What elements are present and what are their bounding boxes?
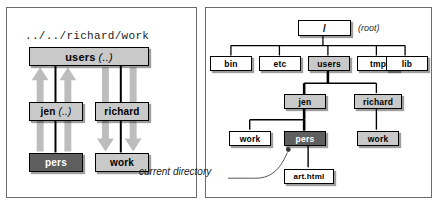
right-node-tmp-label: tmp bbox=[370, 59, 386, 69]
right-node-etc-label: etc bbox=[274, 59, 287, 69]
root-caption: (root) bbox=[358, 23, 380, 33]
figure-root: ../../richard/work bbox=[0, 0, 438, 205]
right-node-lib[interactable]: lib bbox=[386, 56, 428, 71]
right-node-work-jen-label: work bbox=[240, 134, 261, 144]
right-node-root-label: / bbox=[323, 23, 326, 34]
right-node-work-jen[interactable]: work bbox=[229, 131, 271, 146]
left-node-pers[interactable]: pers bbox=[29, 153, 83, 172]
right-node-jen[interactable]: jen bbox=[284, 94, 326, 109]
right-node-bin-label: bin bbox=[224, 59, 237, 69]
right-node-richard-label: richard bbox=[363, 97, 393, 107]
right-node-users[interactable]: users bbox=[308, 56, 350, 71]
right-node-etc[interactable]: etc bbox=[259, 56, 301, 71]
right-node-users-label: users bbox=[317, 59, 341, 69]
left-node-richard[interactable]: richard bbox=[95, 102, 149, 121]
left-node-users-annotation: (..) bbox=[99, 51, 113, 63]
left-node-pers-label: pers bbox=[45, 157, 67, 168]
left-node-jen[interactable]: jen(..) bbox=[29, 102, 83, 121]
current-directory-label: current directory bbox=[139, 166, 211, 177]
right-node-work-richard-label: work bbox=[368, 134, 389, 144]
right-node-art-html[interactable]: art.html bbox=[284, 169, 334, 184]
left-node-users[interactable]: users(..) bbox=[29, 47, 149, 66]
right-node-jen-label: jen bbox=[299, 97, 312, 107]
right-panel: / (root) bin etc users tmp lib jen richa… bbox=[205, 7, 432, 198]
right-node-root[interactable]: / bbox=[298, 20, 351, 36]
right-node-pers[interactable]: pers bbox=[284, 131, 326, 146]
right-node-work-richard[interactable]: work bbox=[357, 131, 399, 146]
right-node-lib-label: lib bbox=[402, 59, 413, 69]
right-node-pers-label: pers bbox=[296, 134, 315, 144]
left-node-jen-label: jen bbox=[40, 106, 55, 117]
left-node-richard-label: richard bbox=[104, 106, 139, 117]
left-node-users-label: users bbox=[65, 51, 95, 63]
left-node-jen-annotation: (..) bbox=[59, 106, 72, 117]
right-node-bin[interactable]: bin bbox=[210, 56, 252, 71]
right-node-richard[interactable]: richard bbox=[354, 94, 402, 109]
left-node-work-label: work bbox=[110, 157, 134, 168]
right-node-art-html-label: art.html bbox=[294, 172, 325, 181]
relative-path-label: ../../richard/work bbox=[25, 30, 149, 42]
